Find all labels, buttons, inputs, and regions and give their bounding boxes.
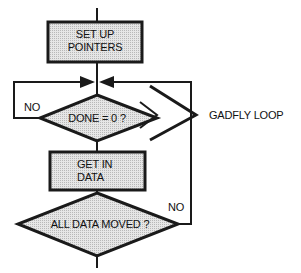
getdata-box-label: GET IN DATA (77, 158, 112, 184)
moved-no-label: NO (168, 201, 184, 214)
arrowhead-right-icon (80, 76, 95, 88)
setup-line2: POINTERS (48, 41, 142, 54)
flowchart-canvas (0, 0, 301, 273)
setup-line1: SET UP (48, 28, 142, 41)
done-no-label: NO (24, 101, 40, 114)
setup-box-label: SET UP POINTERS (48, 28, 142, 54)
done-diamond-label: DONE = 0 ? (57, 112, 137, 125)
moved-diamond-label: ALL DATA MOVED ? (45, 218, 155, 231)
getdata-line1: GET IN (77, 158, 112, 171)
arrowhead-left-icon (99, 76, 114, 88)
gadfly-bracket (150, 86, 196, 140)
gadfly-loop-label: GADFLY LOOP (209, 109, 283, 122)
getdata-line2: DATA (77, 171, 112, 184)
